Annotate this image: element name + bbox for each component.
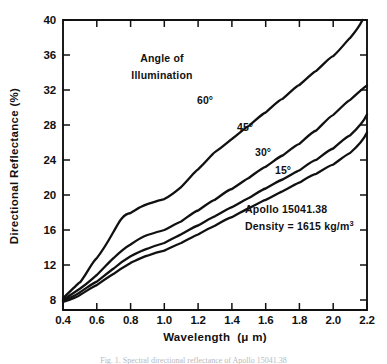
- figure-container: 8 12 16 20 24 28 32 36 40 0.4 0.6 0.8 1.…: [0, 0, 387, 364]
- x-axis-title-text: Wavelength: [163, 331, 230, 343]
- curve-label-60deg: 60°: [197, 94, 213, 106]
- x-tick-0-4: 0.4: [55, 314, 71, 326]
- legend-title-line1: Angle of: [140, 52, 184, 64]
- legend-title-block: Angle of Illumination: [131, 52, 192, 81]
- x-tick-0-8: 0.8: [123, 314, 139, 326]
- curve-label-15deg: 15°: [275, 164, 291, 176]
- y-tick-16: 16: [44, 224, 56, 236]
- sample-info-block: Apollo 15041.38 Density = 1615 kg/m3: [245, 203, 354, 232]
- y-tick-8: 8: [50, 294, 57, 306]
- y-tick-28: 28: [44, 119, 57, 131]
- y-axis-ticks-right: [360, 55, 367, 300]
- x-tick-1-6: 1.6: [258, 314, 273, 326]
- x-axis-ticks-top: [97, 20, 333, 27]
- curve-label-45deg: 45°: [237, 121, 253, 133]
- x-tick-1-8: 1.8: [292, 314, 308, 326]
- y-tick-24: 24: [44, 154, 57, 166]
- curve-label-30deg: 30°: [255, 146, 271, 158]
- x-tick-labels: 0.4 0.6 0.8 1.0 1.2 1.4 1.6 1.8 2.0 2.2: [55, 314, 374, 326]
- y-tick-40: 40: [44, 14, 56, 26]
- y-tick-labels: 8 12 16 20 24 28 32 36 40: [44, 14, 57, 306]
- x-tick-2-0: 2.0: [326, 314, 341, 326]
- x-axis-title-units: (μ m): [237, 331, 267, 343]
- figure-caption: Fig. 1. Spectral directional reflectance…: [0, 355, 387, 364]
- sample-density-text: Density = 1615 kg/m: [245, 220, 349, 232]
- y-tick-12: 12: [44, 259, 56, 271]
- x-axis-ticks: [63, 303, 367, 310]
- curve-45deg: [63, 85, 367, 300]
- reflectance-chart: 8 12 16 20 24 28 32 36 40 0.4 0.6 0.8 1.…: [0, 0, 387, 364]
- x-axis-title: Wavelength(μ m): [163, 331, 267, 343]
- y-tick-36: 36: [44, 49, 56, 61]
- y-axis-ticks: [63, 20, 70, 300]
- x-tick-1-4: 1.4: [224, 314, 240, 326]
- sample-name: Apollo 15041.38: [245, 203, 327, 215]
- y-axis-title: Directional Reflectance (%): [8, 88, 20, 244]
- x-tick-1-0: 1.0: [157, 314, 172, 326]
- y-tick-32: 32: [44, 84, 56, 96]
- y-tick-20: 20: [44, 189, 56, 201]
- x-tick-2-2: 2.2: [359, 314, 374, 326]
- curve-labels: 60° 45° 30° 15°: [197, 94, 291, 176]
- sample-density-exponent: 3: [349, 219, 353, 228]
- x-tick-0-6: 0.6: [89, 314, 104, 326]
- x-tick-1-2: 1.2: [190, 314, 205, 326]
- plot-frame: [63, 20, 367, 310]
- sample-density: Density = 1615 kg/m3: [245, 219, 354, 232]
- legend-title-line2: Illumination: [131, 69, 192, 81]
